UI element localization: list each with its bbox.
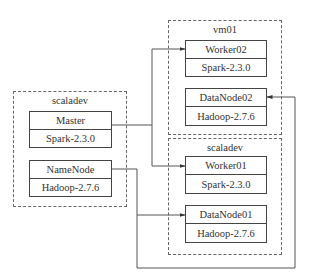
group-label: scaladev bbox=[14, 95, 126, 106]
node-namenode[interactable]: NameNode Hadoop-2.7.6 bbox=[29, 160, 112, 197]
node-role: DataNode01 bbox=[186, 206, 266, 224]
node-software: Hadoop-2.7.6 bbox=[186, 224, 266, 242]
node-role: DataNode02 bbox=[186, 89, 266, 107]
node-software: Spark-2.3.0 bbox=[186, 59, 266, 77]
node-software: Hadoop-2.7.6 bbox=[30, 179, 111, 197]
group-label: scaladev bbox=[169, 142, 281, 153]
node-datanode02[interactable]: DataNode02 Hadoop-2.7.6 bbox=[185, 88, 267, 126]
node-master[interactable]: Master Spark-2.3.0 bbox=[29, 111, 112, 148]
node-role: Worker01 bbox=[186, 157, 266, 175]
node-role: Worker02 bbox=[186, 41, 266, 59]
node-datanode01[interactable]: DataNode01 Hadoop-2.7.6 bbox=[185, 205, 267, 243]
node-worker02[interactable]: Worker02 Spark-2.3.0 bbox=[185, 40, 267, 77]
group-label: vm01 bbox=[169, 24, 281, 35]
node-software: Hadoop-2.7.6 bbox=[186, 107, 266, 125]
node-role: Master bbox=[30, 112, 111, 130]
node-worker01[interactable]: Worker01 Spark-2.3.0 bbox=[185, 156, 267, 194]
node-software: Spark-2.3.0 bbox=[30, 130, 111, 148]
node-software: Spark-2.3.0 bbox=[186, 175, 266, 193]
node-role: NameNode bbox=[30, 161, 111, 179]
